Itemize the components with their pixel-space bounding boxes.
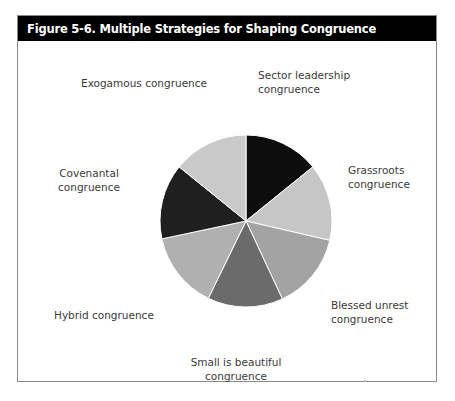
figure-title-bar: Figure 5-6. Multiple Strategies for Shap… (18, 16, 436, 41)
pie-label-line-2: congruence (166, 370, 306, 384)
pie-label-line-1: Blessed unrest (331, 299, 408, 313)
pie-label-sector-leadership: Sector leadership congruence (258, 69, 350, 96)
pie-label-line-1: Grassroots (348, 164, 410, 178)
pie-label-grassroots: Grassroots congruence (348, 164, 410, 191)
pie-label-hybrid: Hybrid congruence (54, 309, 154, 323)
page-speck (364, 380, 366, 382)
pie-label-covenantal: Covenantal congruence (34, 167, 144, 194)
pie-slice-group (160, 135, 332, 307)
pie-label-small-is-beautiful: Small is beautiful congruence (166, 356, 306, 383)
pie-chart-svg (18, 41, 436, 381)
pie-label-line-1: Exogamous congruence (81, 77, 207, 91)
pie-label-line-2: congruence (331, 313, 408, 327)
pie-chart-area: Sector leadership congruence Grassroots … (18, 41, 436, 381)
pie-label-exogamous: Exogamous congruence (81, 77, 207, 91)
page-title: Figure 5-6. Multiple Strategies for Shap… (18, 22, 376, 36)
pie-label-line-2: congruence (348, 178, 410, 192)
pie-label-blessed-unrest: Blessed unrest congruence (331, 299, 408, 326)
pie-label-line-2: congruence (258, 83, 350, 97)
pie-label-line-1: Small is beautiful (166, 356, 306, 370)
pie-label-line-2: congruence (34, 181, 144, 195)
pie-label-line-1: Sector leadership (258, 69, 350, 83)
pie-label-line-1: Covenantal (34, 167, 144, 181)
pie-label-line-1: Hybrid congruence (54, 309, 154, 323)
figure-container: Figure 5-6. Multiple Strategies for Shap… (17, 15, 437, 382)
